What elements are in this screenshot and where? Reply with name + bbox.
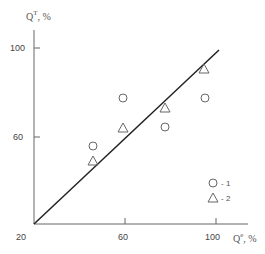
y-tick-label-60: 60: [13, 132, 23, 142]
data-point-circle: [119, 94, 127, 102]
x-axis-title: Qe, %: [233, 231, 257, 244]
data-point-circle: [89, 142, 97, 150]
x-tick-label-20: 20: [16, 232, 26, 242]
legend-triangle-icon: [208, 193, 218, 202]
series-2-triangles: [88, 64, 209, 165]
legend-label-2: - 2: [221, 194, 231, 203]
legend: - 1 - 2: [208, 179, 231, 203]
data-point-triangle: [118, 123, 128, 132]
legend-circle-icon: [209, 179, 217, 187]
data-point-triangle: [88, 156, 98, 165]
scatter-chart: 100 60 20 60 100 QT, % Qe, % - 1 - 2: [0, 0, 265, 254]
data-point-circle: [201, 94, 209, 102]
y-tick-label-100: 100: [10, 43, 25, 53]
series-1-circles: [89, 94, 209, 150]
data-point-triangle: [199, 64, 209, 73]
x-tick-label-60: 60: [118, 232, 128, 242]
y-axis-title: QT, %: [26, 9, 51, 22]
legend-label-1: - 1: [221, 179, 231, 188]
data-point-circle: [161, 123, 169, 131]
reference-line: [34, 50, 219, 224]
x-tick-label-100: 100: [205, 232, 220, 242]
